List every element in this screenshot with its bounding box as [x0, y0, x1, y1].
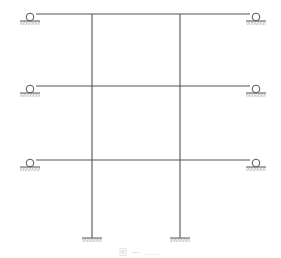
roller-support-icon — [20, 13, 40, 25]
roller-support-icon — [20, 159, 40, 171]
ground-hatch — [246, 93, 266, 97]
roller-circle — [252, 13, 260, 21]
roller-supports — [20, 13, 266, 171]
frame-members — [36, 14, 250, 238]
roller-support-icon — [246, 85, 266, 97]
frame-diagram — [0, 0, 281, 258]
ground-hatch — [20, 167, 40, 171]
roller-support-icon — [246, 13, 266, 25]
ground-hatch — [20, 93, 40, 97]
ground-hatch — [20, 21, 40, 25]
roller-circle — [26, 13, 34, 21]
ground-hatch — [246, 21, 266, 25]
roller-circle — [26, 159, 34, 167]
figure-caption: 图 — …… — [0, 246, 281, 257]
roller-support-icon — [20, 85, 40, 97]
roller-circle — [252, 159, 260, 167]
fixed-supports — [82, 238, 190, 242]
fixed-support-icon — [82, 238, 102, 242]
fixed-support-icon — [170, 238, 190, 242]
ground-hatch — [246, 167, 266, 171]
roller-circle — [252, 85, 260, 93]
roller-circle — [26, 85, 34, 93]
ground-hatch — [82, 238, 102, 242]
ground-hatch — [170, 238, 190, 242]
roller-support-icon — [246, 159, 266, 171]
